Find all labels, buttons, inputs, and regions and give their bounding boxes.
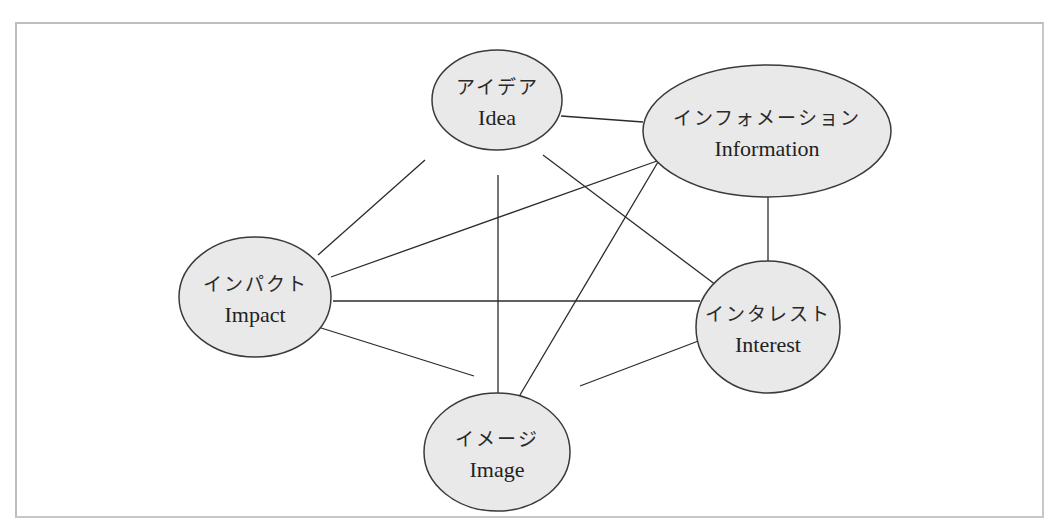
node-label-jp-interest: インタレスト — [705, 303, 831, 325]
node-label-jp-impact: インパクト — [203, 273, 308, 295]
edge-interest-image — [580, 340, 701, 386]
edge-idea-information — [561, 116, 643, 122]
node-label-jp-information: インフォメーション — [673, 107, 861, 129]
node-label-en-interest: Interest — [735, 332, 801, 357]
node-ellipse-information — [643, 65, 891, 197]
node-label-en-impact: Impact — [224, 302, 285, 327]
node-interest: インタレストInterest — [696, 261, 840, 393]
node-ellipse-interest — [696, 261, 840, 393]
node-label-en-idea: Idea — [478, 105, 516, 130]
node-label-en-image: Image — [470, 457, 525, 482]
node-image: イメージImage — [424, 393, 570, 511]
node-information: インフォメーションInformation — [643, 65, 891, 197]
node-ellipse-image — [424, 393, 570, 511]
edge-information-impact — [331, 161, 657, 277]
node-idea: アイデアIdea — [432, 50, 562, 150]
node-label-jp-image: イメージ — [455, 428, 539, 450]
node-ellipse-idea — [432, 50, 562, 150]
edge-idea-impact — [318, 160, 425, 255]
nodes-layer: アイデアIdeaインフォメーションInformationインパクトImpactイ… — [179, 50, 891, 511]
node-label-jp-idea: アイデア — [456, 76, 539, 98]
network-diagram: アイデアIdeaインフォメーションInformationインパクトImpactイ… — [0, 0, 1054, 532]
node-impact: インパクトImpact — [179, 237, 331, 357]
edge-impact-image — [318, 327, 474, 376]
node-ellipse-impact — [179, 237, 331, 357]
edge-information-image — [520, 162, 658, 395]
node-label-en-information: Information — [714, 136, 819, 161]
